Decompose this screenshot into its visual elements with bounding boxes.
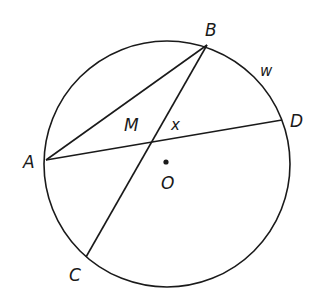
center-point-o — [163, 159, 168, 164]
label-arc-w: w — [260, 62, 273, 80]
label-a: A — [22, 152, 35, 172]
label-o: O — [161, 173, 174, 193]
label-d: D — [290, 111, 303, 131]
chord-ab — [46, 45, 207, 160]
chord-bc — [86, 45, 207, 257]
label-m: M — [124, 115, 139, 135]
label-b: B — [205, 20, 217, 40]
geometry-diagram: B w D M x A O C — [0, 0, 314, 301]
label-angle-x: x — [170, 116, 180, 134]
chord-ad — [46, 120, 282, 160]
label-c: C — [69, 265, 81, 285]
